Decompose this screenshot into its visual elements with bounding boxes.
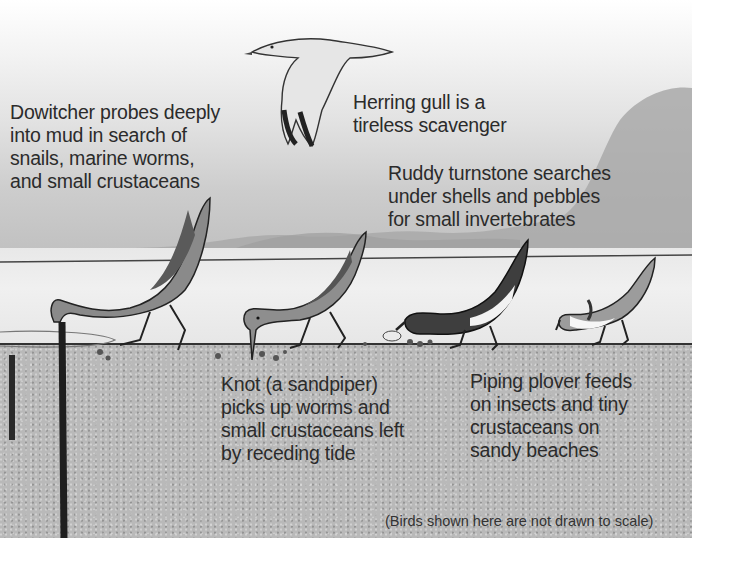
- knot-caption: Knot (a sandpiper) picks up worms and sm…: [221, 373, 404, 465]
- pebbles: [97, 339, 433, 361]
- piping-plover-caption: Piping plover feeds on insects and tiny …: [470, 370, 632, 462]
- piping-plover-drawing: [556, 258, 655, 345]
- shorebird-feeding-illustration: Dowitcher probes deeply into mud in sear…: [0, 0, 692, 538]
- scale-footnote: (Birds shown here are not drawn to scale…: [385, 512, 653, 530]
- dowitcher-caption: Dowitcher probes deeply into mud in sear…: [10, 101, 220, 193]
- ruddy-turnstone-caption: Ruddy turnstone searches under shells an…: [388, 162, 611, 231]
- herring-gull-caption: Herring gull is a tireless scavenger: [353, 91, 507, 137]
- knot-drawing: [244, 232, 366, 360]
- dowitcher-drawing: [12, 198, 210, 538]
